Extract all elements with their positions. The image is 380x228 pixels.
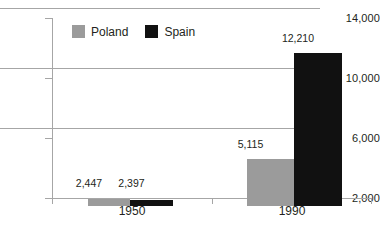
y-tick-mark-6000 (45, 138, 52, 139)
x-category-label-1950: 1950 (92, 205, 172, 217)
bar-spain-1990 (294, 53, 342, 206)
value-label-poland-1990: 5,115 (227, 139, 274, 150)
x-category-label-1990: 1990 (252, 205, 332, 217)
legend-swatch-poland-icon (72, 25, 85, 38)
y-tick-mark-14000 (45, 18, 52, 19)
bar-poland-1990 (247, 159, 294, 206)
value-label-poland-1950: 2,447 (68, 178, 110, 189)
legend-swatch-spain-icon (145, 25, 158, 38)
value-label-spain-1950: 2,397 (110, 178, 153, 189)
legend: Poland Spain (72, 25, 195, 38)
bar-chart: 14,000 10,000 6,000 2,000 2,447 2,397 5,… (0, 0, 380, 228)
value-label-spain-1990: 12,210 (274, 33, 322, 44)
y-tick-mark-10000 (45, 78, 52, 79)
legend-item-spain: Spain (145, 25, 195, 38)
legend-item-poland: Poland (72, 25, 128, 38)
legend-label-poland: Poland (91, 26, 128, 38)
gridline-14000 (0, 8, 320, 9)
y-tick-mark-2000 (45, 198, 52, 199)
legend-label-spain: Spain (164, 26, 195, 38)
